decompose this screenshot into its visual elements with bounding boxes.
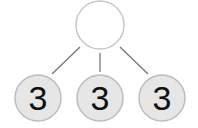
child-node-label: 3 — [91, 79, 110, 117]
child-node-middle: 3 — [77, 75, 123, 121]
child-node-label: 3 — [153, 79, 172, 117]
number-bond-diagram: 3 3 3 — [0, 0, 198, 128]
edge-left — [52, 47, 80, 74]
root-node — [76, 1, 124, 49]
child-node-label: 3 — [29, 79, 48, 117]
edge-right — [120, 47, 148, 74]
child-node-right: 3 — [139, 75, 185, 121]
child-node-left: 3 — [15, 75, 61, 121]
